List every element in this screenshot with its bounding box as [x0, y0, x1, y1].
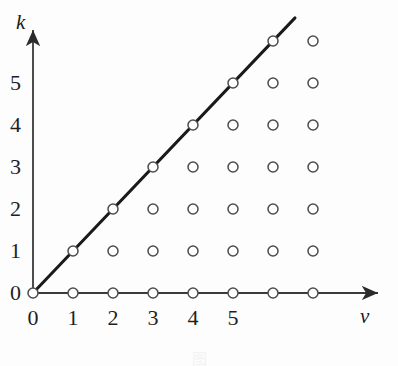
lattice-point: [268, 36, 278, 46]
x-axis-label: v: [360, 306, 369, 327]
lattice-point: [228, 120, 238, 130]
lattice-points-group: [28, 36, 318, 298]
y-tick-label: 4: [1, 114, 21, 136]
lattice-point: [308, 204, 318, 214]
lattice-point: [108, 246, 118, 256]
lattice-point: [268, 288, 278, 298]
lattice-point: [148, 288, 158, 298]
lattice-point: [28, 288, 38, 298]
y-tick-label: 3: [1, 156, 21, 178]
y-tick-label: 5: [1, 72, 21, 94]
lattice-point: [108, 204, 118, 214]
x-tick-label: 4: [182, 307, 204, 329]
lattice-point: [108, 288, 118, 298]
lattice-point: [188, 204, 198, 214]
y-tick-label: 0: [1, 282, 21, 304]
lattice-point: [308, 36, 318, 46]
x-tick-label: 3: [142, 307, 164, 329]
lattice-point: [308, 162, 318, 172]
lattice-point: [148, 162, 158, 172]
y-tick-label: 1: [1, 240, 21, 262]
lattice-point: [228, 204, 238, 214]
x-tick-label: 1: [62, 307, 84, 329]
lattice-point: [228, 246, 238, 256]
lattice-point: [188, 246, 198, 256]
lattice-point: [148, 204, 158, 214]
lattice-point: [228, 162, 238, 172]
lattice-point: [308, 246, 318, 256]
lattice-point: [228, 288, 238, 298]
lattice-point: [188, 120, 198, 130]
caption-fragment: 图: [0, 352, 398, 366]
y-axis-label: k: [16, 12, 25, 33]
lattice-point: [308, 78, 318, 88]
lattice-point: [188, 162, 198, 172]
axes-group: [33, 30, 378, 293]
lattice-point: [308, 288, 318, 298]
x-tick-label: 0: [22, 307, 44, 329]
lattice-point: [68, 288, 78, 298]
lattice-figure: k v 012345 012345 图: [0, 0, 398, 366]
lattice-point: [268, 78, 278, 88]
lattice-point: [148, 246, 158, 256]
x-tick-label: 5: [222, 307, 244, 329]
lattice-point: [268, 246, 278, 256]
lattice-point: [188, 288, 198, 298]
x-tick-label: 2: [102, 307, 124, 329]
y-tick-label: 2: [1, 198, 21, 220]
lattice-point: [268, 204, 278, 214]
lattice-point: [268, 120, 278, 130]
lattice-point: [68, 246, 78, 256]
lattice-point: [268, 162, 278, 172]
lattice-point: [308, 120, 318, 130]
lattice-point: [228, 78, 238, 88]
